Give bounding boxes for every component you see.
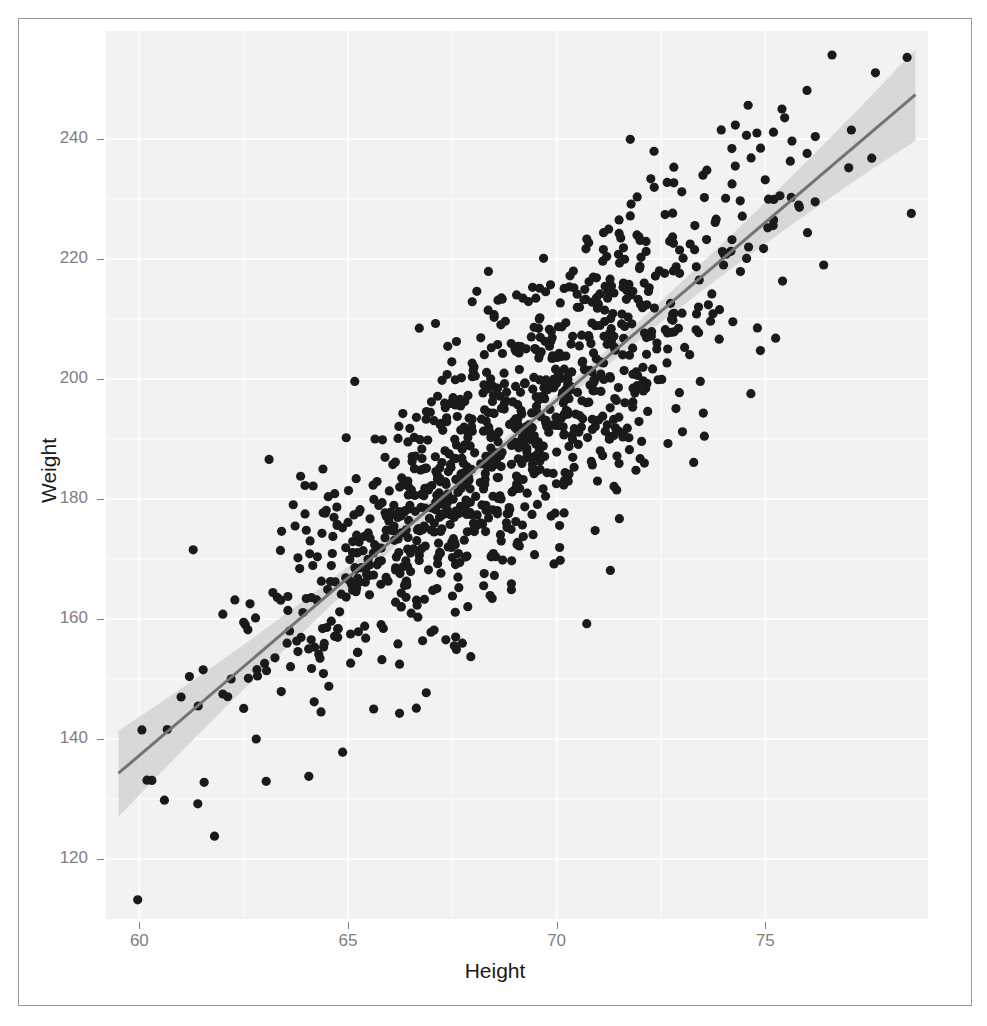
y-axis-title: Weight [37, 443, 61, 503]
scatter-canvas [106, 31, 928, 919]
x-tick-label: 75 [740, 931, 790, 951]
plot-area: 120140160180200220240 60657075 Height We… [19, 19, 971, 1005]
y-tick-mark [97, 379, 104, 380]
x-tick-label: 60 [114, 931, 164, 951]
x-tick-mark [557, 922, 558, 929]
x-tick-label: 65 [323, 931, 373, 951]
x-tick-label: 70 [532, 931, 582, 951]
y-tick-mark [97, 139, 104, 140]
y-tick-label: 160 [44, 608, 88, 628]
y-tick-mark [97, 259, 104, 260]
y-tick-mark [97, 499, 104, 500]
y-tick-mark [97, 859, 104, 860]
figure-frame: 120140160180200220240 60657075 Height We… [18, 18, 972, 1006]
x-axis-title: Height [19, 959, 971, 983]
x-tick-mark [348, 922, 349, 929]
y-tick-label: 140 [44, 728, 88, 748]
y-tick-mark [97, 619, 104, 620]
x-tick-mark [139, 922, 140, 929]
y-tick-label: 120 [44, 848, 88, 868]
y-tick-label: 240 [44, 128, 88, 148]
y-tick-mark [97, 739, 104, 740]
y-tick-label: 200 [44, 368, 88, 388]
x-tick-mark [765, 922, 766, 929]
plot-panel [106, 31, 928, 919]
regression-line [119, 95, 916, 774]
y-tick-label: 220 [44, 248, 88, 268]
